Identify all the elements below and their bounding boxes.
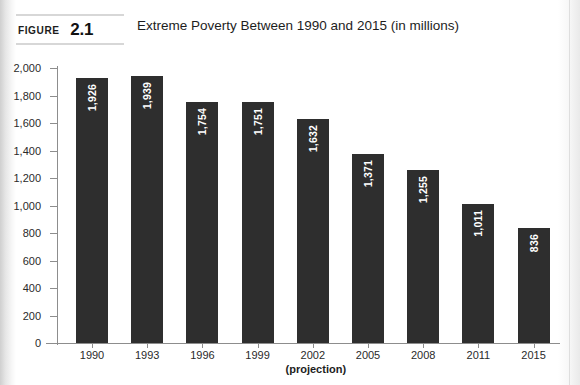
y-axis-tick-label: 1,200 [0, 172, 46, 184]
x-axis-tick-label: 1993 [135, 349, 159, 361]
y-axis-tick-label: 1,000 [0, 200, 46, 212]
y-axis-tick-label: 400 [0, 282, 46, 294]
bar-value-label: 836 [528, 234, 540, 252]
bar: 1,939 [131, 76, 163, 343]
y-axis-tick-label: 1,600 [0, 117, 46, 129]
bar: 836 [518, 228, 550, 343]
y-axis-tick [50, 233, 57, 234]
bar-value-label: 1,371 [362, 160, 374, 187]
x-axis-tick [202, 343, 203, 348]
bar-value-label: 1,011 [472, 210, 484, 237]
bar-value-label: 1,632 [307, 125, 319, 152]
x-axis-tick-label: 2015 [521, 349, 545, 361]
y-axis-tick-label: 600 [0, 255, 46, 267]
bar: 1,751 [242, 102, 274, 343]
x-axis-tick-label: 2002 [301, 349, 325, 361]
y-axis-tick [50, 261, 57, 262]
x-axis-tick [92, 343, 93, 348]
x-axis-tick [368, 343, 369, 348]
bar-value-label: 1,754 [196, 108, 208, 135]
bar: 1,255 [407, 170, 439, 343]
x-axis-tick [478, 343, 479, 348]
bar-chart: 2,0001,8001,6001,4001,2001,0008006004002… [0, 0, 580, 385]
x-axis-tick-label: 2011 [467, 349, 491, 361]
y-axis-tick [50, 151, 57, 152]
y-axis-tick [50, 96, 57, 97]
bar: 1,011 [462, 204, 494, 343]
bar: 1,926 [76, 78, 108, 343]
x-axis-tick-label: 1996 [190, 349, 214, 361]
bar-value-label: 1,926 [86, 84, 98, 111]
y-axis-tick [50, 178, 57, 179]
y-axis-tick [50, 288, 57, 289]
x-axis-tick [147, 343, 148, 348]
bar-value-label: 1,751 [252, 108, 264, 135]
x-axis-line [46, 343, 560, 344]
x-axis-tick-label: 1990 [80, 349, 104, 361]
x-axis-tick [313, 343, 314, 348]
x-axis-tick [423, 343, 424, 348]
y-axis-tick [50, 68, 57, 69]
y-axis-tick-label: 0 [0, 337, 46, 349]
y-axis-tick [50, 123, 57, 124]
x-axis-tick-label: 2005 [356, 349, 380, 361]
y-axis-tick-label: 200 [0, 310, 46, 322]
x-axis-tick [258, 343, 259, 348]
x-axis-tick-label: 2008 [411, 349, 435, 361]
y-axis-tick-label: 2,000 [0, 62, 46, 74]
y-axis-tick [50, 206, 57, 207]
bar-value-label: 1,939 [141, 82, 153, 109]
bar: 1,371 [352, 154, 384, 343]
bar: 1,754 [186, 102, 218, 343]
y-axis-line [57, 66, 58, 345]
y-axis-tick-label: 1,400 [0, 145, 46, 157]
projection-annotation: (projection) [286, 363, 347, 375]
x-axis-tick-label: 1999 [245, 349, 269, 361]
y-axis-tick [50, 343, 57, 344]
bar: 1,632 [297, 119, 329, 343]
y-axis-tick-label: 1,800 [0, 90, 46, 102]
y-axis-tick [50, 316, 57, 317]
x-axis-tick [534, 343, 535, 348]
y-axis-tick-label: 800 [0, 227, 46, 239]
bar-value-label: 1,255 [417, 176, 429, 203]
